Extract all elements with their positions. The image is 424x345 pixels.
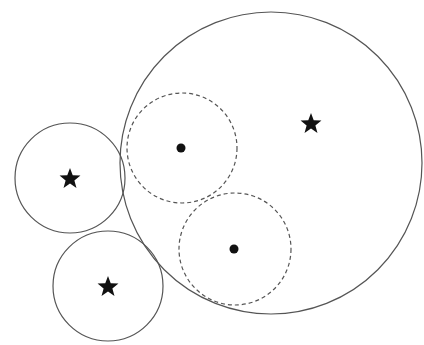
star-icon xyxy=(60,168,81,188)
dashed-circles xyxy=(127,93,291,305)
center-dot xyxy=(230,245,239,254)
center-dot xyxy=(177,144,186,153)
markers xyxy=(60,113,322,296)
star-icon xyxy=(301,113,322,133)
star-icon xyxy=(98,276,119,296)
solid-circle-large xyxy=(120,12,422,314)
circles-diagram xyxy=(0,0,424,345)
